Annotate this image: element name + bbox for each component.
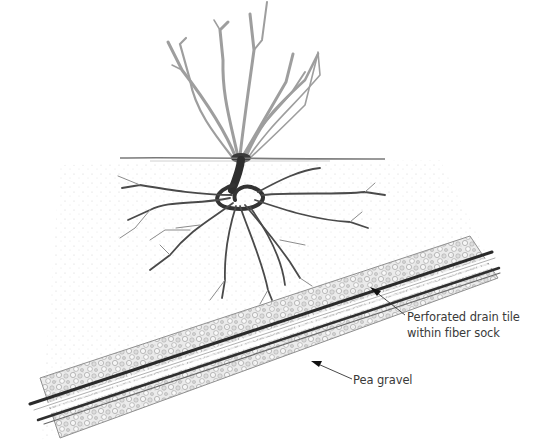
drain-tile-label: Perforated drain tile within fiber sock <box>407 309 520 341</box>
drain-tile-label-line1: Perforated drain tile <box>407 309 520 325</box>
drainage-illustration: Perforated drain tile within fiber sock … <box>0 0 542 448</box>
pea-gravel-label: Pea gravel <box>353 372 412 388</box>
pea-gravel-leader <box>311 361 352 379</box>
soil-line <box>120 158 385 161</box>
drain-tile-label-line2: within fiber sock <box>407 325 520 341</box>
illustration-canvas <box>0 0 542 448</box>
shrub-stems <box>168 2 320 158</box>
